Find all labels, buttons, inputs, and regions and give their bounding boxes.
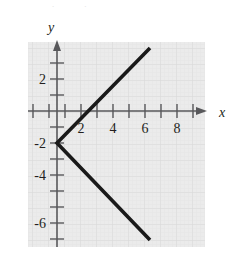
- y-tick-label-2: 2: [39, 72, 46, 87]
- y-tick-label-neg4: -4: [34, 168, 46, 183]
- plot-background: [28, 42, 205, 247]
- x-tick-label-8: 8: [174, 121, 181, 136]
- graph-figure: 2 4 6 8 2 -2 -4 -6 y x: [0, 0, 227, 254]
- x-axis-label: x: [218, 105, 226, 120]
- y-tick-label-neg2: -2: [34, 136, 46, 151]
- y-tick-label-neg6: -6: [34, 216, 46, 231]
- y-axis-label: y: [46, 20, 55, 35]
- x-tick-label-4: 4: [110, 121, 117, 136]
- x-tick-label-6: 6: [142, 121, 149, 136]
